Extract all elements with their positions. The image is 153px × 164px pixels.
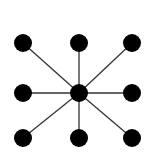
node-bottom-left — [14, 129, 32, 147]
edge-center-bottom-left — [23, 93, 79, 138]
node-bottom-middle — [70, 129, 88, 147]
node-bottom-right — [123, 129, 141, 147]
node-middle-left — [14, 84, 32, 102]
edge-center-top-right — [79, 43, 132, 93]
node-top-left — [14, 34, 32, 52]
star-graph-diagram — [0, 0, 153, 164]
edge-center-bottom-right — [79, 93, 132, 138]
node-middle-right — [123, 84, 141, 102]
node-top-right — [123, 34, 141, 52]
node-center — [70, 84, 88, 102]
node-top-middle — [70, 34, 88, 52]
edge-center-top-left — [23, 43, 79, 93]
